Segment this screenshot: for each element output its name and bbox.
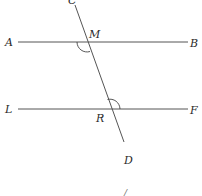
label-c: C bbox=[68, 0, 77, 7]
stray-mark: / bbox=[123, 188, 128, 196]
geometry-diagram: C A M B L R F D / bbox=[0, 0, 202, 196]
label-f: F bbox=[189, 104, 198, 117]
label-l: L bbox=[4, 103, 12, 116]
label-a: A bbox=[4, 36, 13, 49]
label-m: M bbox=[88, 28, 101, 41]
label-d: D bbox=[123, 154, 133, 167]
label-b: B bbox=[189, 37, 198, 50]
angle-arc-m bbox=[77, 42, 90, 52]
label-r: R bbox=[95, 112, 104, 125]
